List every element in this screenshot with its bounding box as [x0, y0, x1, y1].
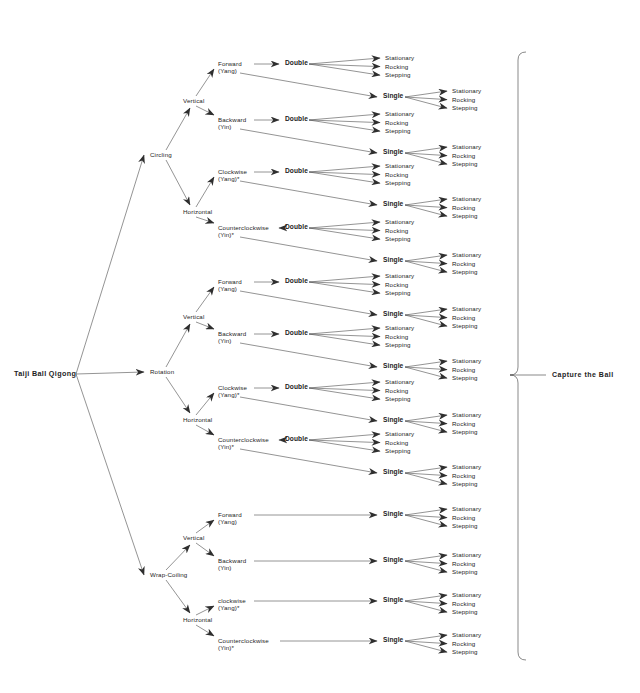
edge-single-stance-1-b0-r2	[405, 205, 447, 208]
stance-node-rocking-double-b1-r3: Rocking	[385, 439, 408, 446]
mode-node-single-b2-r3: Single	[383, 636, 403, 644]
direction-node-clockwise-b0-r2-qualifier: (Yang)*	[218, 175, 247, 182]
edge-double-stance-0-b1-r1	[309, 328, 380, 334]
stance-node-rocking-single-b2-r1: Rocking	[452, 560, 475, 567]
mode-node-single-b1-r1: Single	[383, 362, 403, 370]
edge-orientation-0-direction-1-b1	[196, 322, 214, 329]
edge-branch-2-orientation-1	[166, 580, 190, 613]
edge-single-stance-2-b1-r3	[405, 473, 447, 484]
edge-double-stance-1-b0-r0	[309, 64, 380, 67]
edge-direction-to-single-b0-r3	[240, 237, 377, 261]
stance-node-stepping-single-b1-r1: Stepping	[452, 374, 478, 381]
mode-node-double-b1-r3: Double	[285, 435, 308, 443]
stance-node-rocking-single-b2-r3: Rocking	[452, 640, 475, 647]
edge-single-stance-0-b0-r3	[405, 255, 447, 261]
stance-node-stepping-double-b0-r0: Stepping	[385, 71, 411, 78]
stance-node-rocking-single-b2-r2: Rocking	[452, 600, 475, 607]
direction-node-clockwise-b1-r2: Clockwise(Yang)*	[218, 384, 247, 398]
edge-single-stance-1-b1-r0	[405, 315, 447, 318]
orientation-node-circling-horizontal: Horizontal	[183, 208, 212, 215]
mode-node-double-b1-r1: Double	[285, 329, 308, 337]
stance-node-rocking-double-b0-r0: Rocking	[385, 63, 408, 70]
edge-single-stance-1-b0-r0	[405, 97, 447, 100]
edge-direction-to-single-b0-r1	[240, 129, 377, 153]
stance-node-stationary-double-b1-r3: Stationary	[385, 430, 414, 437]
edge-single-stance-1-b2-r1	[405, 561, 447, 564]
edge-single-stance-1-b1-r1	[405, 367, 447, 370]
stance-node-stepping-single-b0-r0: Stepping	[452, 104, 478, 111]
edge-single-stance-0-b0-r0	[405, 91, 447, 97]
direction-node-backward-b1-r1-qualifier: (Yin)	[218, 337, 246, 344]
stance-node-stationary-double-b1-r2: Stationary	[385, 378, 414, 385]
mode-node-single-b0-r0: Single	[383, 92, 403, 100]
mode-node-single-b1-r2: Single	[383, 416, 403, 424]
edge-single-stance-2-b0-r3	[405, 261, 447, 272]
stance-node-stepping-single-b1-r0: Stepping	[452, 322, 478, 329]
stance-node-stationary-single-b2-r1: Stationary	[452, 551, 481, 558]
edge-double-stance-0-b1-r3	[309, 434, 380, 440]
direction-node-forward-b2-r0: Forward(Yang)	[218, 511, 242, 525]
stance-node-stationary-single-b1-r1: Stationary	[452, 357, 481, 364]
mode-node-double-b1-r0: Double	[285, 277, 308, 285]
stance-node-rocking-double-b1-r0: Rocking	[385, 281, 408, 288]
mode-node-single-b1-r0: Single	[383, 310, 403, 318]
edge-single-stance-0-b2-r3	[405, 635, 447, 641]
direction-node-forward-b1-r0: Forward(Yang)	[218, 278, 242, 292]
direction-node-clockwise-b0-r2: Clockwise(Yang)*	[218, 168, 247, 182]
stance-node-stationary-single-b1-r0: Stationary	[452, 305, 481, 312]
stance-node-rocking-single-b2-r0: Rocking	[452, 514, 475, 521]
edge-single-stance-0-b1-r0	[405, 309, 447, 315]
stance-node-stepping-double-b1-r1: Stepping	[385, 341, 411, 348]
direction-node-backward-b2-r1-primary: Backward	[218, 557, 246, 564]
edge-orientation-1-direction-1-b1	[196, 425, 214, 435]
edge-orientation-0-direction-0-b2	[196, 520, 214, 533]
edge-single-stance-1-b2-r3	[405, 641, 447, 644]
edge-double-stance-2-b1-r3	[309, 440, 380, 451]
edge-single-stance-2-b1-r1	[405, 367, 447, 378]
stance-node-stepping-double-b1-r0: Stepping	[385, 289, 411, 296]
edge-single-stance-0-b2-r1	[405, 555, 447, 561]
direction-node-clockwise-b2-r2: clockwise(Yang)*	[218, 597, 246, 611]
stance-node-rocking-single-b0-r2: Rocking	[452, 204, 475, 211]
edge-double-stance-2-b1-r1	[309, 334, 380, 345]
edge-single-stance-0-b1-r1	[405, 361, 447, 367]
direction-node-forward-b1-r0-qualifier: (Yang)	[218, 285, 242, 292]
mode-node-double-b0-r3: Double	[285, 223, 308, 231]
edge-double-stance-1-b1-r3	[309, 440, 380, 443]
edge-single-stance-2-b0-r0	[405, 97, 447, 108]
edge-branch-2-orientation-0	[166, 545, 190, 570]
edge-direction-to-single-b1-r0	[240, 291, 377, 315]
direction-node-forward-b0-r0-qualifier: (Yang)	[218, 67, 242, 74]
mode-node-single-b2-r0: Single	[383, 510, 403, 518]
stance-node-rocking-double-b1-r1: Rocking	[385, 333, 408, 340]
edge-root-to-branch-1	[76, 372, 144, 374]
stance-node-stationary-double-b0-r3: Stationary	[385, 218, 414, 225]
edge-orientation-0-direction-0-b0	[196, 69, 214, 96]
direction-node-forward-b1-r0-primary: Forward	[218, 278, 242, 285]
edge-single-stance-1-b1-r3	[405, 473, 447, 476]
edge-orientation-1-direction-1-b2	[196, 625, 214, 636]
edge-single-stance-2-b2-r2	[405, 601, 447, 612]
direction-node-backward-b0-r1-primary: Backward	[218, 116, 246, 123]
direction-node-counterclockwise-b0-r3-primary: Counterclockwise	[218, 224, 269, 231]
edge-double-stance-0-b0-r0	[309, 58, 380, 64]
stance-node-rocking-double-b0-r3: Rocking	[385, 227, 408, 234]
stance-node-rocking-single-b0-r3: Rocking	[452, 260, 475, 267]
edge-root-to-branch-0	[76, 155, 144, 374]
direction-node-counterclockwise-b0-r3-qualifier: (Yin)*	[218, 231, 269, 238]
stance-node-stepping-single-b1-r3: Stepping	[452, 480, 478, 487]
output-node-capture-the-ball: Capture the Ball	[552, 371, 614, 379]
edge-orientation-0-direction-0-b1	[196, 287, 214, 312]
stance-node-stepping-double-b0-r3: Stepping	[385, 235, 411, 242]
direction-node-backward-b1-r1: Backward(Yin)	[218, 330, 246, 344]
stance-node-stationary-double-b1-r1: Stationary	[385, 324, 414, 331]
stance-node-stationary-single-b1-r3: Stationary	[452, 463, 481, 470]
branch-node-circling: Circling	[150, 151, 172, 158]
stance-node-stepping-single-b2-r3: Stepping	[452, 648, 478, 655]
stance-node-stepping-single-b2-r1: Stepping	[452, 568, 478, 575]
stance-node-stepping-single-b2-r2: Stepping	[452, 608, 478, 615]
edge-double-stance-2-b0-r3	[309, 228, 380, 239]
edge-double-stance-2-b0-r2	[309, 172, 380, 183]
stance-node-stepping-single-b0-r3: Stepping	[452, 268, 478, 275]
edge-double-stance-2-b1-r2	[309, 388, 380, 399]
